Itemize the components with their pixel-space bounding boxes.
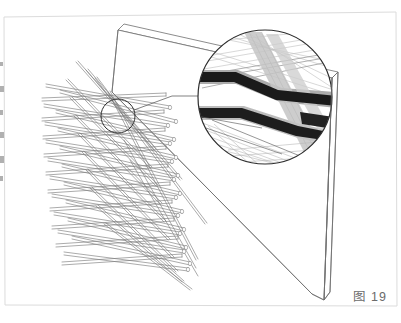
figure-page: 图 19 [0,0,401,323]
figure-caption: 图 19 [353,286,387,305]
figure-illustration [0,0,401,323]
